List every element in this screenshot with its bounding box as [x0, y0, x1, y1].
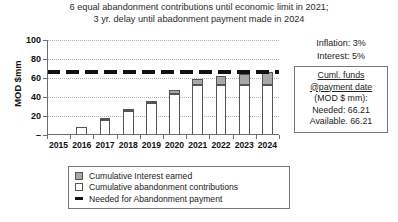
- legend-marker-interest-icon: [75, 172, 83, 180]
- x-axis-tick: [209, 135, 210, 139]
- y-axis-label: 80: [31, 54, 41, 64]
- x-axis-label: 2018: [119, 140, 138, 150]
- y-axis-label: –: [36, 130, 41, 140]
- funds-box-line-3: (MOD $ mm):: [297, 93, 385, 105]
- legend-item: Cumulative abandonment contributions: [75, 182, 283, 194]
- x-axis-tick: [163, 135, 164, 139]
- chart-figure: 6 equal abandonment contributions until …: [0, 0, 398, 222]
- gridline: [47, 59, 279, 60]
- bar-segment-contributions: [262, 85, 273, 135]
- legend-marker-contrib-icon: [75, 183, 83, 191]
- bar-segment-interest: [192, 79, 203, 85]
- funds-box-needed: Needed: 66.21: [297, 105, 385, 117]
- y-axis-tick: [43, 116, 47, 117]
- legend-label: Cumulative Interest earned: [89, 171, 192, 181]
- bar-2017: [100, 119, 111, 135]
- funds-box-available: Available. 66.21: [297, 116, 385, 128]
- bar-2018: [123, 110, 134, 135]
- bar-2020: [169, 90, 180, 135]
- cumulative-funds-box: Cuml. funds @payment date (MOD $ mm): Ne…: [294, 66, 388, 133]
- y-axis-label: 20: [31, 111, 41, 121]
- x-axis-tick: [140, 135, 141, 139]
- x-axis-label: 2021: [188, 140, 207, 150]
- y-axis: [47, 40, 48, 135]
- funds-box-line-1: Cuml. funds: [297, 70, 385, 82]
- x-axis-label: 2022: [211, 140, 230, 150]
- inflation-note: Inflation: 3%: [286, 38, 396, 48]
- x-axis-label: 2024: [258, 140, 277, 150]
- bar-segment-interest: [239, 74, 250, 85]
- x-axis-label: 2015: [49, 140, 68, 150]
- chart-title: 6 equal abandonment contributions until …: [0, 1, 398, 25]
- x-axis-tick: [233, 135, 234, 139]
- legend-item: Needed for Abandonment payment: [75, 193, 283, 205]
- x-axis-label: 2019: [142, 140, 161, 150]
- bar-segment-contributions: [216, 85, 227, 135]
- x-axis-tick: [47, 135, 48, 139]
- bar-segment-contributions: [192, 85, 203, 135]
- y-axis-tick: [43, 59, 47, 60]
- x-axis-tick: [70, 135, 71, 139]
- y-axis-tick: [43, 78, 47, 79]
- chart-legend: Cumulative Interest earnedCumulative aba…: [68, 166, 290, 209]
- y-axis-title: MOD $mm: [12, 60, 23, 106]
- legend-item: Cumulative Interest earned: [75, 170, 283, 182]
- x-axis-label: 2017: [95, 140, 114, 150]
- needed-threshold-line: [47, 70, 279, 74]
- gridline: [47, 40, 279, 41]
- x-axis-tick: [93, 135, 94, 139]
- bar-segment-contributions: [169, 94, 180, 135]
- bar-segment-interest: [123, 109, 134, 111]
- x-axis-tick: [117, 135, 118, 139]
- bar-segment-contributions: [146, 103, 157, 135]
- bar-segment-contributions: [239, 85, 250, 135]
- bar-segment-interest: [169, 90, 180, 94]
- bar-2022: [216, 76, 227, 135]
- y-axis-tick: [43, 97, 47, 98]
- interest-note: Interest: 5%: [286, 51, 396, 61]
- x-axis-tick: [279, 135, 280, 139]
- chart-title-line-1: 6 equal abandonment contributions until …: [0, 1, 398, 13]
- y-axis-label: 100: [26, 35, 41, 45]
- bar-segment-interest: [216, 76, 227, 85]
- x-axis-label: 2023: [235, 140, 254, 150]
- bar-2021: [192, 79, 203, 135]
- bar-segment-contributions: [123, 111, 134, 135]
- legend-marker-needed-icon: [75, 197, 83, 200]
- bar-segment-interest: [146, 101, 157, 103]
- x-axis-label: 2016: [72, 140, 91, 150]
- bar-2019: [146, 101, 157, 135]
- bar-segment-interest: [100, 118, 111, 120]
- plot-area: –20406080100 201520162017201820192020202…: [47, 40, 279, 135]
- y-axis-label: 40: [31, 92, 41, 102]
- legend-label: Cumulative abandonment contributions: [89, 182, 238, 192]
- bar-segment-contributions: [100, 120, 111, 135]
- y-axis-label: 60: [31, 73, 41, 83]
- x-axis-label: 2020: [165, 140, 184, 150]
- legend-label: Needed for Abandonment payment: [89, 194, 222, 204]
- bar-2024: [262, 72, 273, 135]
- bar-2023: [239, 74, 250, 135]
- funds-box-line-2: @payment date: [297, 82, 385, 94]
- x-axis-tick: [256, 135, 257, 139]
- chart-title-line-2: 3 yr. delay until abadonment payment mad…: [0, 13, 398, 25]
- x-axis-tick: [186, 135, 187, 139]
- y-axis-tick: [43, 40, 47, 41]
